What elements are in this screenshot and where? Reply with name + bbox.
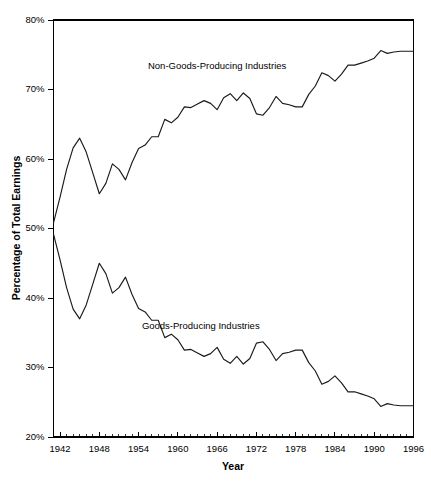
y-tick-label: 50% (25, 222, 45, 233)
x-tick-label: 1948 (89, 443, 110, 454)
x-tick-label: 1954 (128, 443, 149, 454)
y-axis-tick-labels: 20%30%40%50%60%70%80% (25, 14, 45, 442)
y-tick-label: 70% (25, 83, 45, 94)
x-tick-label: 1972 (246, 443, 267, 454)
y-tick-label: 40% (25, 292, 45, 303)
y-tick-label: 30% (25, 361, 45, 372)
series-lines (54, 51, 414, 407)
x-axis-title: Year (222, 460, 244, 472)
x-tick-label: 1942 (49, 443, 70, 454)
y-axis-title: Percentage of Total Earnings (10, 156, 22, 301)
x-tick-label: 1966 (207, 443, 228, 454)
x-axis-tick-labels: 1942194819541960196619721978198419901996 (49, 443, 424, 454)
chart-container: 20%30%40%50%60%70%80% 194219481954196019… (0, 0, 431, 486)
y-tick-label: 80% (25, 14, 45, 25)
axis-frame (54, 20, 414, 437)
y-tick-label: 20% (25, 431, 45, 442)
x-tick-label: 1978 (285, 443, 306, 454)
x-tick-label: 1960 (167, 443, 188, 454)
y-axis-major-ticks (48, 20, 54, 437)
x-tick-label: 1984 (324, 443, 345, 454)
series-annotation-non-goods: Non-Goods-Producing Industries (148, 60, 287, 71)
x-tick-label: 1996 (403, 443, 424, 454)
y-tick-label: 60% (25, 153, 45, 164)
x-tick-label: 1990 (364, 443, 385, 454)
series-annotations: Non-Goods-Producing IndustriesGoods-Prod… (142, 60, 287, 331)
line-chart: 20%30%40%50%60%70%80% 194219481954196019… (0, 0, 431, 486)
series-line-non-goods (54, 51, 414, 223)
series-annotation-goods: Goods-Producing Industries (142, 320, 260, 331)
